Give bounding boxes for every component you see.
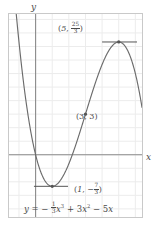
equation-minus: − (41, 204, 51, 214)
inflection-point-label: (3, 3) (76, 113, 98, 121)
cubic-function-graph-figure: y x (5, 253) (3, 3) (1, −73) y = − 13x3 … (0, 0, 157, 226)
min-label-sign: − (87, 185, 94, 194)
equation-term3-variable: x (108, 204, 113, 214)
x-axis-label: x (146, 153, 151, 162)
y-axis-label: y (31, 3, 36, 12)
min-label-close: ) (99, 185, 102, 194)
max-label-close: ) (80, 24, 83, 33)
equation-equals: = (29, 204, 42, 214)
marked-point-local-maximum (117, 40, 120, 43)
max-point-label: (5, 253) (58, 22, 83, 35)
equation-plus: + (64, 204, 77, 214)
min-point-label: (1, −73) (74, 183, 102, 196)
equation-minus2: − (90, 204, 103, 214)
max-label-denominator: 3 (71, 29, 79, 35)
max-label-fraction: 253 (71, 22, 79, 35)
marked-point-local-minimum (51, 185, 54, 188)
equation-label: y = − 13x3 + 3x2 − 5x (24, 201, 113, 214)
